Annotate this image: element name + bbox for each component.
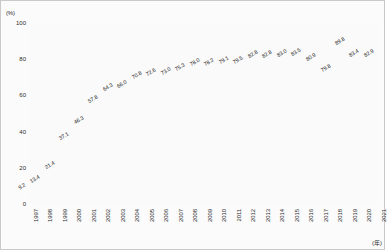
- plot-area: 9.213.421.437.146.357.864.366.070.872.67…: [30, 23, 378, 204]
- x-axis-tick-label: 2004: [134, 209, 140, 222]
- x-axis-tick-label: 2013: [265, 209, 271, 222]
- y-axis-tick-label: 40: [19, 129, 26, 135]
- x-axis-tick-label: 2003: [120, 209, 126, 222]
- x-axis-tick-label: 2007: [178, 209, 184, 222]
- x-axis-tick-label: 2009: [207, 209, 213, 222]
- x-axis-tick-label: 1997: [33, 209, 39, 222]
- x-axis-tick-label: 2011: [236, 209, 242, 222]
- x-axis-tick-labels: 1997199819992000200120022003200420052006…: [30, 206, 378, 250]
- y-axis-tick-label: 100: [16, 20, 26, 26]
- y-axis-tick-label: 60: [19, 92, 26, 98]
- y-axis-tick-label: 80: [19, 56, 26, 62]
- x-axis-tick-label: 2017: [323, 209, 329, 222]
- x-axis-tick-label: 2014: [279, 209, 285, 222]
- x-axis-tick-label: 2005: [149, 209, 155, 222]
- x-axis-tick-label: 2016: [308, 209, 314, 222]
- x-axis-tick-label: 2015: [294, 209, 300, 222]
- y-axis-tick-label: 20: [19, 165, 26, 171]
- x-axis-tick-label: 2020: [366, 209, 372, 222]
- x-axis-tick-label: 2008: [192, 209, 198, 222]
- x-axis-tick-label: 2012: [250, 209, 256, 222]
- x-axis-tick-label: 2021: [381, 209, 387, 222]
- y-axis-tick-label: 0: [23, 201, 26, 207]
- x-axis-tick-label: 1999: [62, 209, 68, 222]
- x-axis-tick-label: 2006: [163, 209, 169, 222]
- x-axis-tick-label: 2018: [337, 209, 343, 222]
- x-axis-tick-label: 2000: [76, 209, 82, 222]
- x-axis-tick-label: 2002: [105, 209, 111, 222]
- y-axis-tick-labels: 020406080100: [0, 23, 26, 204]
- plot-background: [30, 23, 378, 204]
- x-axis-tick-label: 2010: [221, 209, 227, 222]
- y-axis-unit-label: (%): [6, 10, 15, 16]
- x-axis-tick-label: 1998: [47, 209, 53, 222]
- x-axis-tick-label: 2001: [91, 209, 97, 222]
- x-axis-tick-label: 2019: [352, 209, 358, 222]
